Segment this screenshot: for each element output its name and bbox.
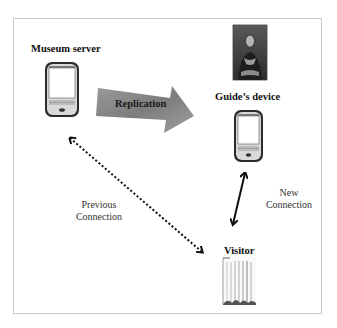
previous-connection-line1: Previous bbox=[70, 199, 128, 211]
diagram-canvas: Museum server Replication Guide’s device… bbox=[0, 0, 337, 328]
previous-connection-label: Previous Connection bbox=[70, 199, 128, 223]
visitor-label: Visitor bbox=[224, 246, 255, 257]
mona-lisa-painting-icon bbox=[233, 25, 267, 80]
new-connection-line1: New bbox=[261, 187, 317, 199]
museum-server-label: Museum server bbox=[31, 44, 101, 55]
new-connection-line2: Connection bbox=[261, 199, 317, 211]
replication-label: Replication bbox=[115, 99, 166, 110]
visitor-figure-icon bbox=[222, 256, 256, 305]
new-connection-arrow bbox=[233, 173, 245, 224]
previous-connection-line2: Connection bbox=[70, 211, 128, 223]
replication-arrow bbox=[96, 86, 194, 133]
guide-device-phone-icon bbox=[234, 110, 263, 162]
previous-connection-arrow bbox=[70, 138, 202, 252]
museum-server-phone-icon bbox=[45, 62, 79, 117]
new-connection-label: New Connection bbox=[261, 187, 317, 211]
guide-device-label: Guide’s device bbox=[215, 92, 280, 103]
